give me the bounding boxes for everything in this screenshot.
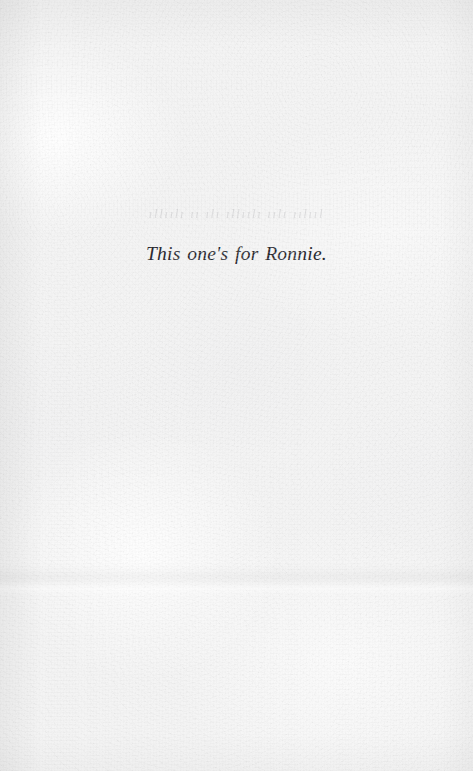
dedication-page: ıllıılı ıı ılı ıllıılı ıılı ıılııl This …: [0, 0, 473, 771]
page-edge-vignette: [0, 0, 473, 771]
